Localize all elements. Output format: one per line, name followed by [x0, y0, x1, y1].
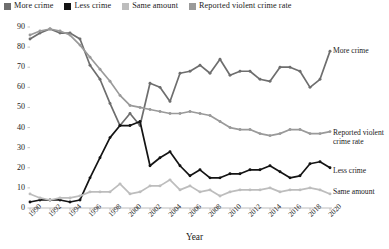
- y-axis-tick-80: 80: [7, 43, 25, 51]
- y-axis-tick-60: 60: [7, 83, 25, 91]
- y-axis-tick-70: 70: [7, 63, 25, 71]
- crime-perception-line-chart: More crime Less crime Same amount Report…: [0, 0, 389, 249]
- y-axis-tick-90: 90: [7, 23, 25, 31]
- y-axis-tick-20: 20: [7, 164, 25, 172]
- y-axis-tick-40: 40: [7, 124, 25, 132]
- series-label-more-crime: More crime: [333, 47, 369, 56]
- series-reported-violent-crime-rate: [29, 28, 332, 137]
- series-label-less-crime: Less crime: [333, 167, 366, 176]
- x-axis-title: Year: [0, 232, 389, 242]
- series-label-same-amount: Same amount: [333, 188, 375, 197]
- series-same-amount: [29, 178, 332, 201]
- y-axis-tick-0: 0: [7, 204, 25, 212]
- series-label-reported-violent-crime-rate-line2: crime rate: [333, 138, 364, 147]
- y-axis-tick-30: 30: [7, 144, 25, 152]
- y-axis-tick-10: 10: [7, 184, 25, 192]
- y-axis-tick-50: 50: [7, 103, 25, 111]
